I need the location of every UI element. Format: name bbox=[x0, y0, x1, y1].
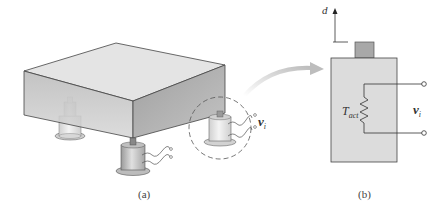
terminal-bottom bbox=[422, 131, 427, 136]
resistor-label: Tact bbox=[342, 101, 358, 120]
voltage-label-a: vi bbox=[258, 112, 266, 131]
voltage-label-b: vi bbox=[413, 100, 421, 119]
zoom-arrow bbox=[244, 62, 324, 96]
caption-b: (b) bbox=[358, 188, 371, 200]
terminal-top bbox=[422, 82, 427, 87]
displacement-label: d bbox=[322, 4, 328, 16]
sensor-plunger bbox=[355, 42, 374, 58]
load-cell-front bbox=[116, 138, 172, 176]
panel-b bbox=[331, 8, 426, 162]
diagram-canvas bbox=[0, 0, 447, 210]
arrowhead-up-icon bbox=[333, 8, 338, 14]
caption-a: (a) bbox=[138, 188, 150, 200]
load-cell-right bbox=[204, 111, 256, 146]
platform-block bbox=[24, 43, 225, 138]
panel-a bbox=[24, 43, 256, 176]
